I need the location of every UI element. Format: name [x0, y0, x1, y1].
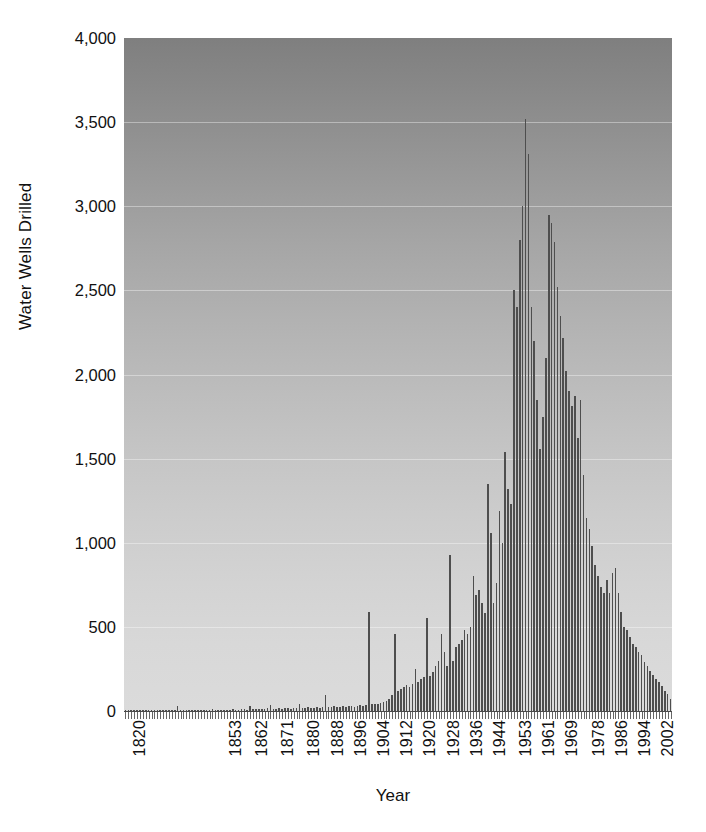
bar: [415, 669, 417, 711]
bar: [383, 702, 385, 711]
bar: [664, 691, 666, 711]
bar: [560, 316, 562, 711]
y-tick-label: 1,000: [50, 533, 116, 552]
bar: [528, 154, 530, 711]
bar: [502, 543, 504, 711]
bar: [623, 627, 625, 711]
bar: [493, 603, 495, 711]
x-tick-label: 1888: [329, 720, 347, 756]
bar: [513, 290, 515, 711]
bar: [612, 573, 614, 711]
bar: [403, 687, 405, 711]
x-tick-label: 1862: [253, 720, 271, 756]
x-tick-label: 1978: [590, 720, 608, 756]
y-tick-label: 2,000: [50, 365, 116, 384]
y-tick-label: 500: [50, 617, 116, 636]
x-tick-label: 1871: [279, 720, 297, 756]
y-tick-label: 1,500: [50, 449, 116, 468]
x-tick-label: 1961: [540, 720, 558, 756]
y-tick-label: 3,500: [50, 113, 116, 132]
bar: [461, 640, 463, 711]
bar: [446, 666, 448, 711]
x-tick-label: 1904: [375, 720, 393, 756]
bar: [481, 603, 483, 711]
bar: [661, 686, 663, 711]
bar: [620, 612, 622, 711]
x-tick-label: 1986: [613, 720, 631, 756]
bar: [394, 634, 396, 711]
bar: [667, 694, 669, 711]
bar: [589, 529, 591, 711]
bar: [670, 699, 672, 711]
bar: [609, 593, 611, 711]
bar: [452, 661, 454, 711]
plot-area: [124, 38, 672, 711]
bar: [458, 644, 460, 711]
x-tick-label: 1820: [131, 720, 149, 756]
bar: [519, 240, 521, 711]
bar: [606, 580, 608, 711]
bar: [658, 682, 660, 711]
bar: [455, 647, 457, 711]
x-tick-label: 1880: [305, 720, 323, 756]
bar: [475, 595, 477, 711]
bar: [449, 555, 451, 711]
bar: [409, 687, 411, 711]
bar: [299, 704, 301, 711]
bar: [507, 489, 509, 711]
x-tick-label: 1953: [517, 720, 535, 756]
bar: [551, 223, 553, 711]
x-tick-label: 1853: [227, 720, 245, 756]
bar: [426, 618, 428, 711]
bar: [536, 400, 538, 711]
bar: [632, 644, 634, 711]
bar: [652, 675, 654, 711]
bar: [391, 695, 393, 711]
y-tick-label: 2,500: [50, 281, 116, 300]
bar: [464, 630, 466, 711]
bar: [478, 590, 480, 711]
bar: [374, 704, 376, 711]
bar: [371, 704, 373, 711]
x-axis-label: Year: [376, 786, 410, 806]
bar: [655, 679, 657, 711]
bar: [380, 703, 382, 711]
bar: [525, 119, 527, 711]
x-axis-tick-labels: 1820185318621871188018881896190419121920…: [124, 712, 672, 792]
bar: [574, 396, 576, 711]
x-tick-label: 1936: [468, 720, 486, 756]
bar: [429, 676, 431, 711]
bar: [571, 406, 573, 711]
bar: [580, 400, 582, 711]
bar: [470, 627, 472, 711]
y-axis-ticks: 05001,0001,5002,0002,5003,0003,5004,000: [50, 0, 116, 832]
x-tick-label: 1994: [636, 720, 654, 756]
bar: [557, 287, 559, 711]
bar: [542, 417, 544, 711]
bar: [388, 699, 390, 711]
bar: [368, 612, 370, 711]
y-tick-label: 3,000: [50, 197, 116, 216]
bar: [412, 684, 414, 711]
bar: [496, 583, 498, 711]
bar: [473, 576, 475, 711]
bar: [467, 634, 469, 711]
bar: [583, 475, 585, 711]
bar: [325, 695, 327, 711]
bar: [423, 677, 425, 711]
bar: [594, 565, 596, 711]
bar: [484, 613, 486, 711]
bar: [548, 215, 550, 711]
bar: [565, 371, 567, 711]
y-tick-label: 0: [50, 702, 116, 721]
x-tick-label: 2002: [659, 720, 677, 756]
bar: [649, 671, 651, 711]
bar: [533, 341, 535, 711]
bar: [531, 307, 533, 711]
bar: [635, 647, 637, 711]
bar: [490, 533, 492, 711]
x-tick-label: 1928: [445, 720, 463, 756]
bar: [539, 449, 541, 711]
bar: [641, 655, 643, 711]
bar: [554, 242, 556, 711]
